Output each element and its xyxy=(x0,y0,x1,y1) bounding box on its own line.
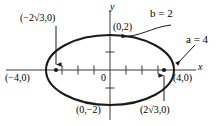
semi-major-label: a = 4 xyxy=(186,34,208,45)
x-axis-label: x xyxy=(198,62,202,72)
covertex-bottom-label: (0,−2) xyxy=(76,105,101,115)
ellipse-diagram: y x 0 (−2√3,0) (2√3,0) (−4,0) (4,0) (0,2… xyxy=(0,0,222,126)
vertex-right-label: (4,0) xyxy=(173,73,192,83)
focus-right-point xyxy=(162,68,166,72)
y-axis-label: y xyxy=(110,2,114,12)
focus-left-point xyxy=(54,68,58,72)
vertex-left-label: (−4,0) xyxy=(5,73,30,83)
semi-major-leader xyxy=(177,45,195,64)
covertex-top-label: (0,2) xyxy=(113,22,132,32)
focus-left-label: (−2√3,0) xyxy=(20,13,55,23)
semi-minor-label: b = 2 xyxy=(150,8,173,19)
focus-right-label: (2√3,0) xyxy=(140,105,170,115)
origin-label: 0 xyxy=(101,73,106,83)
